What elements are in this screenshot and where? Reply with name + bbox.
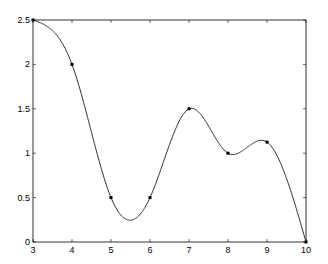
data-point-marker [227,152,230,155]
x-tick-label: 7 [186,245,191,255]
x-tick-label: 9 [264,245,269,255]
data-point-marker [266,141,269,144]
x-tick-label: 6 [147,245,152,255]
data-point-marker [71,63,74,66]
x-tick-label: 8 [225,245,230,255]
y-tick-label: 0.5 [17,193,30,203]
plot-background [33,20,306,242]
y-tick-label: 0 [25,237,30,247]
x-tick-label: 4 [69,245,74,255]
x-tick-label: 5 [108,245,113,255]
x-tick-label: 10 [301,245,311,255]
y-tick-label: 1.5 [17,104,30,114]
x-tick-label: 3 [30,245,35,255]
data-point-marker [188,107,191,110]
y-tick-label: 1 [25,148,30,158]
y-tick-label: 2 [25,59,30,69]
spline-chart: 345678910 00.511.522.5 [0,0,328,264]
data-point-marker [110,196,113,199]
y-tick-label: 2.5 [17,15,30,25]
data-point-marker [305,241,308,244]
data-point-marker [32,19,35,22]
data-point-marker [149,196,152,199]
